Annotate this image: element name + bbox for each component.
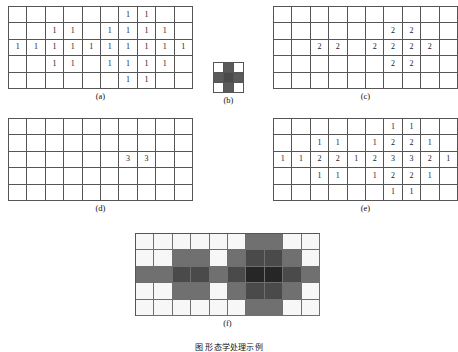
grid-d-cell-r1-c6 xyxy=(119,135,137,151)
grid-f-cell-r0-c2 xyxy=(173,234,191,250)
grid-c-cell-r3-c5 xyxy=(366,56,384,72)
grid-a-cell-r2-c9: 1 xyxy=(175,40,193,56)
grid-f-cell-r3-c7 xyxy=(265,283,283,299)
grid-f-cell-r0-c5 xyxy=(228,234,246,250)
grid-c-cell-r3-c2 xyxy=(311,56,329,72)
grid-f-cell-r2-c8 xyxy=(283,267,301,283)
grid-a-cell-r4-c1 xyxy=(27,73,45,89)
grid-a-cell-r4-c8 xyxy=(156,73,174,89)
grid-f-cell-r1-c0 xyxy=(136,250,154,266)
grid-d-cell-r1-c2 xyxy=(46,135,64,151)
grid-f-cell-r0-c6 xyxy=(246,234,264,250)
grid-d-cell-r4-c9 xyxy=(175,185,193,201)
grid-a-cell-r1-c8: 1 xyxy=(156,23,174,39)
grid-c-cell-r3-c0 xyxy=(274,56,292,72)
grid-d-cell-r3-c8 xyxy=(156,168,174,184)
grid-f-cell-r0-c9 xyxy=(302,234,320,250)
grid-a-cell-r2-c8: 1 xyxy=(156,40,174,56)
grid-a-cell-r0-c2 xyxy=(46,7,64,23)
grid-d-cell-r4-c5 xyxy=(101,185,119,201)
grid-c-cell-r1-c7: 2 xyxy=(403,23,421,39)
panel-f: (f) xyxy=(135,233,320,328)
grid-f-cell-r2-c5 xyxy=(228,267,246,283)
grid-a-cell-r3-c1 xyxy=(27,56,45,72)
grid-a-cell-r2-c4: 1 xyxy=(83,40,101,56)
grid-e-cell-r3-c9 xyxy=(440,168,458,184)
grid-d: 33 xyxy=(8,118,193,201)
grid-d-cell-r2-c9 xyxy=(175,152,193,168)
grid-e-cell-r4-c7: 1 xyxy=(403,185,421,201)
grid-d-cell-r3-c1 xyxy=(27,168,45,184)
grid-c-cell-r3-c8 xyxy=(421,56,439,72)
grid-f-cell-r0-c3 xyxy=(191,234,209,250)
grid-e-cell-r2-c1: 1 xyxy=(292,152,310,168)
grid-c-cell-r0-c6 xyxy=(384,7,402,23)
grid-f-cell-r2-c3 xyxy=(191,267,209,283)
grid-a-cell-r0-c8 xyxy=(156,7,174,23)
grid-f-cell-r2-c4 xyxy=(210,267,228,283)
grid-c-cell-r1-c4 xyxy=(348,23,366,39)
grid-e-cell-r3-c1 xyxy=(292,168,310,184)
grid-f-cell-r1-c8 xyxy=(283,250,301,266)
grid-f-cell-r2-c9 xyxy=(302,267,320,283)
grid-a-cell-r4-c3 xyxy=(64,73,82,89)
grid-d-cell-r2-c0 xyxy=(9,152,27,168)
grid-e-cell-r4-c4 xyxy=(348,185,366,201)
grid-d-cell-r0-c8 xyxy=(156,119,174,135)
grid-d-cell-r1-c3 xyxy=(64,135,82,151)
grid-e-cell-r0-c4 xyxy=(348,119,366,135)
grid-c-cell-r2-c4 xyxy=(348,40,366,56)
grid-c-cell-r3-c3 xyxy=(329,56,347,72)
grid-c-cell-r4-c4 xyxy=(348,73,366,89)
grid-d-cell-r0-c2 xyxy=(46,119,64,135)
panel-a: 11111111111111111111111111 (a) xyxy=(8,6,193,101)
grid-c: 2222222222 xyxy=(273,6,458,89)
grid-d-cell-r4-c0 xyxy=(9,185,27,201)
grid-f-cell-r3-c4 xyxy=(210,283,228,299)
grid-f-cell-r3-c5 xyxy=(228,283,246,299)
grid-f xyxy=(135,233,320,316)
grid-f-cell-r4-c5 xyxy=(228,300,246,316)
grid-b-cell-r2-c2 xyxy=(234,83,244,93)
grid-d-cell-r3-c4 xyxy=(83,168,101,184)
grid-f-cell-r4-c9 xyxy=(302,300,320,316)
grid-e-cell-r0-c0 xyxy=(274,119,292,135)
grid-e-cell-r2-c5: 2 xyxy=(366,152,384,168)
grid-a-cell-r1-c4 xyxy=(83,23,101,39)
grid-d-cell-r0-c7 xyxy=(138,119,156,135)
grid-e-cell-r1-c2: 1 xyxy=(311,135,329,151)
grid-f-cell-r0-c0 xyxy=(136,234,154,250)
grid-f-cell-r0-c7 xyxy=(265,234,283,250)
grid-a-cell-r1-c1 xyxy=(27,23,45,39)
grid-f-cell-r1-c2 xyxy=(173,250,191,266)
grid-c-cell-r2-c1 xyxy=(292,40,310,56)
grid-f-cell-r0-c4 xyxy=(210,234,228,250)
grid-c-cell-r0-c4 xyxy=(348,7,366,23)
grid-a-cell-r3-c7: 1 xyxy=(138,56,156,72)
grid-e-cell-r0-c3 xyxy=(329,119,347,135)
grid-c-cell-r4-c6 xyxy=(384,73,402,89)
grid-e-cell-r2-c4: 1 xyxy=(348,152,366,168)
grid-c-cell-r4-c2 xyxy=(311,73,329,89)
grid-e-cell-r1-c3: 1 xyxy=(329,135,347,151)
panel-e-caption: (e) xyxy=(273,203,458,213)
grid-b-cell-r0-c0 xyxy=(214,63,224,73)
grid-d-cell-r1-c4 xyxy=(83,135,101,151)
grid-c-cell-r1-c8 xyxy=(421,23,439,39)
grid-d-cell-r2-c6: 3 xyxy=(119,152,137,168)
grid-d-cell-r4-c1 xyxy=(27,185,45,201)
grid-c-cell-r3-c7: 2 xyxy=(403,56,421,72)
grid-c-cell-r2-c0 xyxy=(274,40,292,56)
grid-e-cell-r2-c2: 2 xyxy=(311,152,329,168)
grid-c-cell-r1-c3 xyxy=(329,23,347,39)
grid-c-cell-r1-c5 xyxy=(366,23,384,39)
grid-a-cell-r4-c2 xyxy=(46,73,64,89)
grid-f-cell-r4-c8 xyxy=(283,300,301,316)
grid-e-cell-r4-c1 xyxy=(292,185,310,201)
grid-b-cell-r0-c1 xyxy=(224,63,234,73)
grid-a-cell-r2-c0: 1 xyxy=(9,40,27,56)
grid-d-cell-r4-c2 xyxy=(46,185,64,201)
grid-d-cell-r4-c6 xyxy=(119,185,137,201)
grid-e-cell-r0-c6: 1 xyxy=(384,119,402,135)
grid-c-cell-r0-c0 xyxy=(274,7,292,23)
